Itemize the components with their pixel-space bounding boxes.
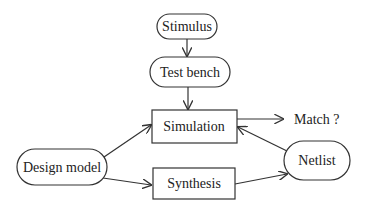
node-stimulus: Stimulus — [157, 14, 217, 39]
node-design-model-label: Design model — [23, 160, 101, 175]
edge-synthesis-netlist — [235, 174, 287, 184]
edge-design-simulation — [104, 125, 151, 157]
edge-netlist-simulation — [238, 127, 287, 151]
node-test-bench: Test bench — [150, 57, 230, 87]
edge-design-synthesis — [103, 178, 151, 185]
node-design-model: Design model — [17, 149, 107, 185]
match-output-label: Match ? — [294, 112, 339, 127]
node-test-bench-label: Test bench — [160, 65, 220, 80]
node-stimulus-label: Stimulus — [162, 19, 212, 34]
node-synthesis: Synthesis — [153, 168, 235, 199]
node-simulation: Simulation — [152, 110, 237, 143]
flow-diagram: Stimulus Test bench Simulation Design mo… — [0, 0, 370, 214]
node-synthesis-label: Synthesis — [167, 176, 221, 191]
node-netlist-label: Netlist — [298, 153, 335, 168]
node-netlist: Netlist — [284, 141, 350, 180]
node-simulation-label: Simulation — [163, 119, 224, 134]
